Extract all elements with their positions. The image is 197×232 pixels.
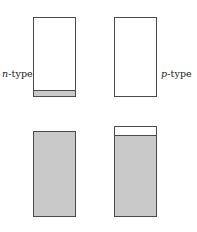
- label-n-type: n-type: [2, 68, 33, 79]
- band-gray-full: [34, 132, 75, 216]
- band-gray-full: [115, 127, 156, 216]
- slab-n-type-top: [33, 17, 76, 97]
- label-n-suffix: -type: [8, 68, 33, 79]
- label-p-type: p-type: [161, 68, 192, 79]
- slab-p-type-bottom: [114, 126, 157, 217]
- slab-p-type-top: [114, 17, 157, 97]
- semiconductor-diagram: n-type p-type: [0, 0, 197, 232]
- label-p-suffix: -type: [167, 68, 192, 79]
- band-gray-bottom: [34, 90, 75, 96]
- band-white-top: [115, 127, 156, 136]
- slab-n-type-bottom: [33, 131, 76, 217]
